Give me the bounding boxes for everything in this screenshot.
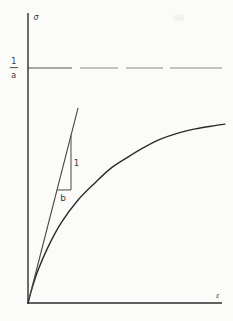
x-axis-label: ε	[216, 292, 220, 300]
plot-layer	[27, 13, 225, 304]
figure-canvas: σ ε 1 a 1 b	[0, 0, 233, 321]
y-axis-label: σ	[34, 13, 40, 22]
scanned-page: σ ε 1 a 1 b	[0, 0, 233, 321]
asymptote-denominator: a	[11, 71, 16, 80]
slope-rise-label: 1	[74, 158, 79, 168]
scan-artifact	[173, 14, 185, 21]
asymptote-numerator: 1	[11, 57, 16, 66]
asymptote-value-label: 1 a	[10, 57, 18, 80]
slope-run-label: b	[60, 193, 66, 203]
saturation-curve	[28, 124, 225, 303]
